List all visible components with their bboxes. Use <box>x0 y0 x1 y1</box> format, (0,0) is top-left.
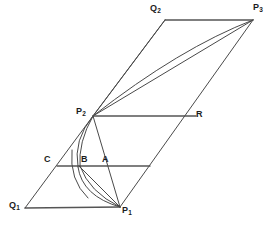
label-c: C <box>44 155 51 164</box>
segment-q2-p2 <box>93 20 165 116</box>
label-q2: Q2 <box>150 4 161 13</box>
label-r: R <box>196 110 203 119</box>
label-q1: Q1 <box>9 201 20 210</box>
geometry-figure: Q1 P1 P2 Q2 P3 R C B A <box>0 0 278 229</box>
segment-q1-p1 <box>25 207 120 208</box>
geometry-canvas <box>0 0 278 229</box>
label-b: B <box>81 155 88 164</box>
label-p2: P2 <box>76 107 86 116</box>
label-a: A <box>102 155 109 164</box>
segment-p2-p3 <box>93 20 253 116</box>
label-p1: P1 <box>122 206 132 215</box>
label-p3: P3 <box>253 3 263 12</box>
segment-p3-p1 <box>120 20 253 207</box>
